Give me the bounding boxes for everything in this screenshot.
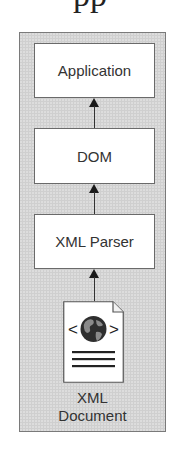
cropped-title-fragment: pp (0, 0, 180, 12)
globe-icon (81, 316, 107, 342)
node-application: Application (34, 43, 155, 98)
node-dom: DOM (34, 128, 155, 184)
node-xml-parser-label: XML Parser (55, 233, 134, 250)
node-xml-parser: XML Parser (34, 214, 155, 269)
xml-document-icon: < > (63, 301, 124, 383)
arrow-parser-to-dom (94, 192, 95, 215)
svg-text:>: > (109, 320, 119, 339)
node-application-label: Application (58, 62, 131, 79)
xml-document-label-line1: XML (19, 389, 166, 407)
svg-text:<: < (68, 320, 78, 339)
arrow-document-to-parser (94, 277, 95, 301)
xml-document-label-line2: Document (19, 407, 166, 425)
node-dom-label: DOM (77, 148, 112, 165)
arrow-dom-to-application (94, 106, 95, 128)
